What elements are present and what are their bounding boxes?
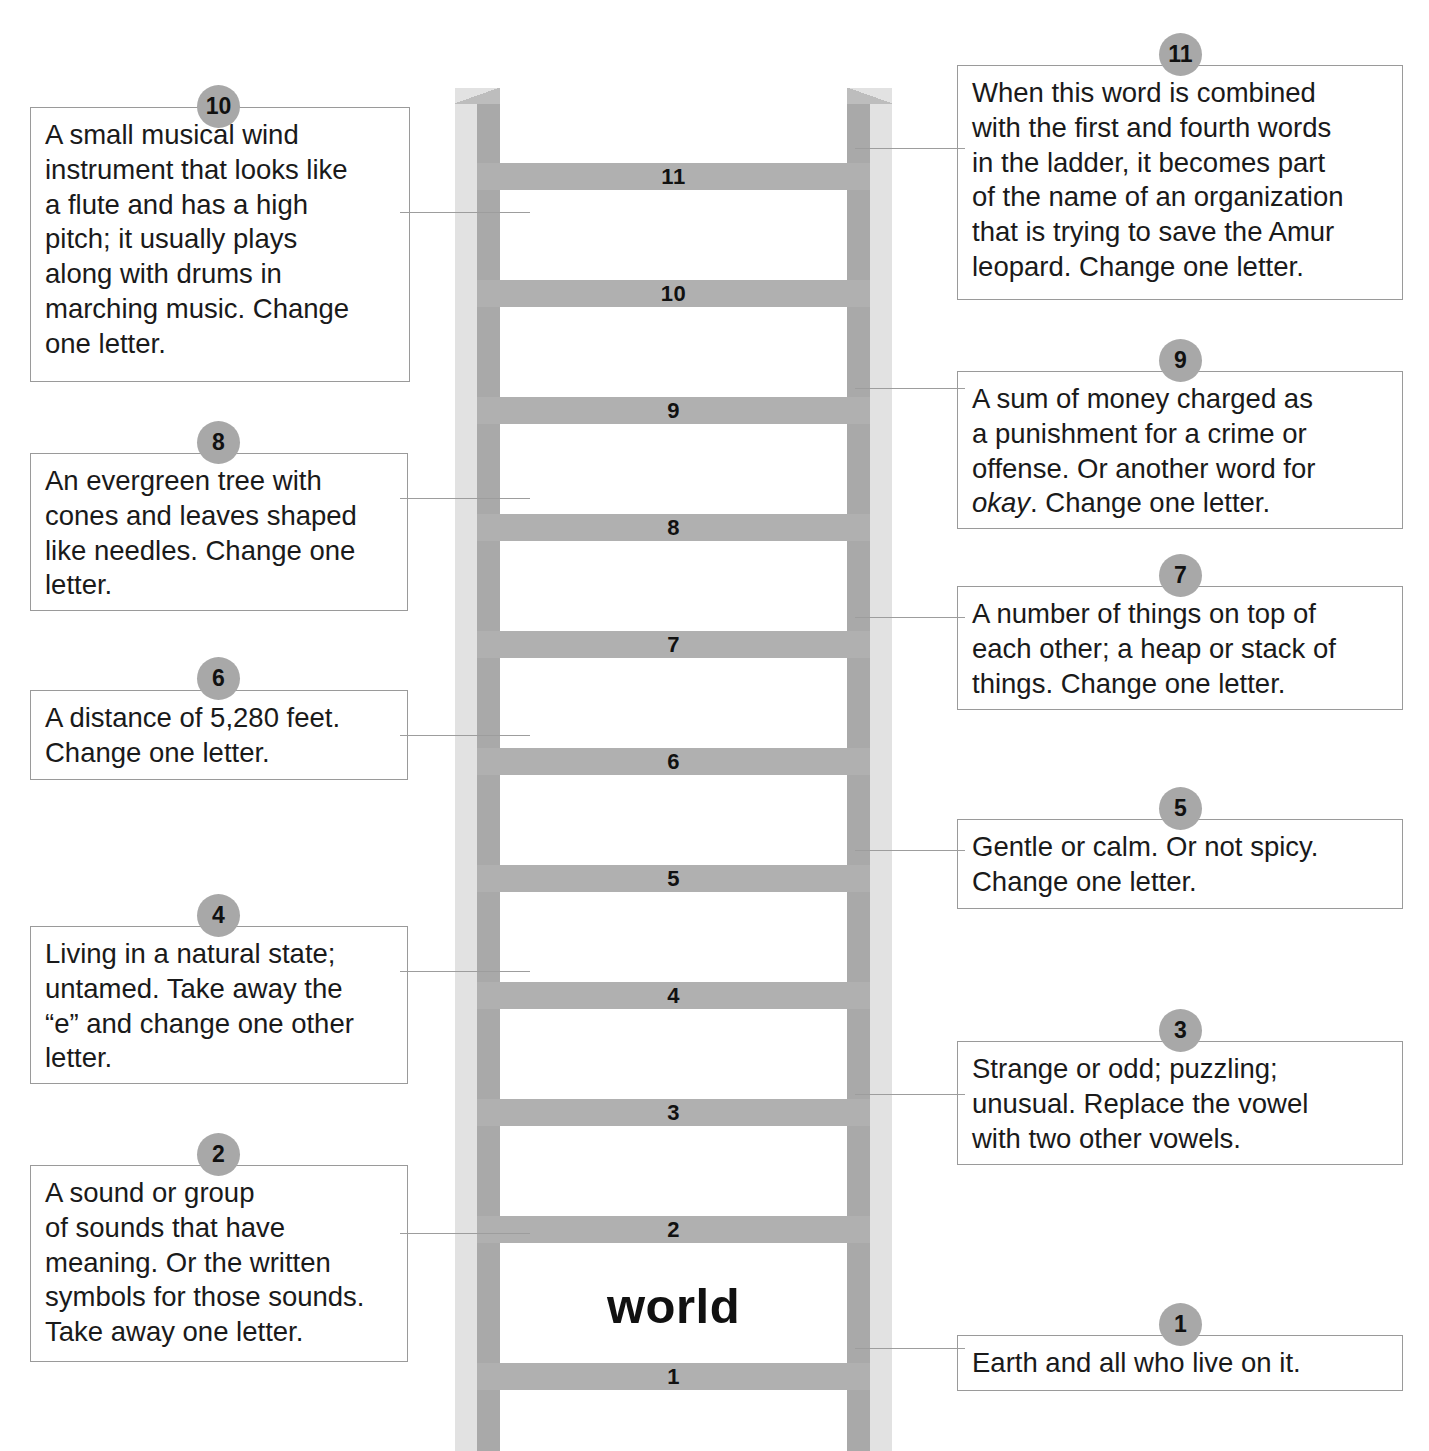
clue-badge-9: 9: [1159, 339, 1202, 382]
clue-box-10: A small musical wind instrument that loo…: [30, 107, 410, 382]
clue-box-7: A number of things on top of each other;…: [957, 586, 1403, 710]
clue-badge-10: 10: [197, 85, 240, 128]
clue-text-10: A small musical wind instrument that loo…: [45, 118, 395, 361]
answer-word-world: world: [500, 1278, 847, 1334]
clue-text-3: Strange or odd; puzzling; unusual. Repla…: [972, 1052, 1388, 1156]
clue-badge-11: 11: [1159, 33, 1202, 76]
ladder-rung-10: 10: [477, 280, 870, 307]
clue-text-11: When this word is combined with the firs…: [972, 76, 1388, 285]
clue-text-6: A distance of 5,280 feet. Change one let…: [45, 701, 393, 771]
ladder-rail-left-cap: [455, 88, 500, 104]
ladder-rung-3: 3: [477, 1099, 870, 1126]
connector-clue-10: [400, 212, 530, 213]
rung-number-1: 1: [477, 1364, 870, 1390]
connector-clue-9: [855, 388, 965, 389]
clue-badge-6: 6: [197, 657, 240, 700]
clue-text-7: A number of things on top of each other;…: [972, 597, 1388, 701]
clue-box-11: When this word is combined with the firs…: [957, 65, 1403, 300]
clue-box-4: Living in a natural state; untamed. Take…: [30, 926, 408, 1084]
rung-number-10: 10: [477, 281, 870, 307]
ladder-rung-2: 2: [477, 1216, 870, 1243]
clue-text-9-part1: A sum of money charged as a punishment f…: [972, 383, 1315, 484]
ladder-rung-8: 8: [477, 514, 870, 541]
connector-clue-8: [400, 498, 530, 499]
rung-number-8: 8: [477, 515, 870, 541]
rung-number-2: 2: [477, 1217, 870, 1243]
rung-number-11: 11: [477, 164, 870, 190]
ladder-rung-6: 6: [477, 748, 870, 775]
word-ladder-graphic: 11 10 9 8 7 6 5 4 3 2 1 world: [455, 88, 892, 1451]
connector-clue-4: [400, 971, 530, 972]
ladder-rung-7: 7: [477, 631, 870, 658]
connector-clue-5: [855, 850, 965, 851]
clue-badge-2: 2: [197, 1133, 240, 1176]
ladder-rail-left-outer: [455, 88, 477, 1451]
ladder-rung-11: 11: [477, 163, 870, 190]
clue-box-6: A distance of 5,280 feet. Change one let…: [30, 690, 408, 780]
rung-number-4: 4: [477, 983, 870, 1009]
clue-text-9-italic: okay: [972, 487, 1030, 518]
clue-box-3: Strange or odd; puzzling; unusual. Repla…: [957, 1041, 1403, 1165]
clue-text-5: Gentle or calm. Or not spicy. Change one…: [972, 830, 1388, 900]
clue-box-8: An evergreen tree with cones and leaves …: [30, 453, 408, 611]
connector-clue-1: [855, 1348, 965, 1349]
ladder-rail-right-cap: [847, 88, 892, 104]
word-ladder-puzzle-page: 11 10 9 8 7 6 5 4 3 2 1 world: [0, 0, 1429, 1451]
connector-clue-3: [855, 1094, 965, 1095]
clue-badge-1: 1: [1159, 1303, 1202, 1346]
clue-box-9: A sum of money charged as a punishment f…: [957, 371, 1403, 529]
clue-text-9: A sum of money charged as a punishment f…: [972, 382, 1388, 521]
clue-badge-8: 8: [197, 421, 240, 464]
clue-badge-5: 5: [1159, 787, 1202, 830]
rung-number-5: 5: [477, 866, 870, 892]
connector-clue-6: [400, 735, 530, 736]
ladder-rung-1: 1: [477, 1363, 870, 1390]
clue-text-8: An evergreen tree with cones and leaves …: [45, 464, 393, 603]
ladder-rung-4: 4: [477, 982, 870, 1009]
rung-number-3: 3: [477, 1100, 870, 1126]
clue-text-9-part2: . Change one letter.: [1030, 487, 1270, 518]
clue-badge-7: 7: [1159, 554, 1202, 597]
rung-number-6: 6: [477, 749, 870, 775]
rung-number-7: 7: [477, 632, 870, 658]
clue-badge-4: 4: [197, 894, 240, 937]
clue-badge-3: 3: [1159, 1009, 1202, 1052]
clue-box-5: Gentle or calm. Or not spicy. Change one…: [957, 819, 1403, 909]
rung-number-9: 9: [477, 398, 870, 424]
connector-clue-2: [400, 1233, 530, 1234]
connector-clue-7: [855, 617, 965, 618]
ladder-rung-5: 5: [477, 865, 870, 892]
ladder-rail-right-outer: [870, 88, 892, 1451]
clue-text-2: A sound or group of sounds that have mea…: [45, 1176, 393, 1350]
clue-text-1: Earth and all who live on it.: [972, 1346, 1388, 1381]
clue-box-2: A sound or group of sounds that have mea…: [30, 1165, 408, 1362]
ladder-rung-9: 9: [477, 397, 870, 424]
connector-clue-11: [855, 148, 965, 149]
clue-text-4: Living in a natural state; untamed. Take…: [45, 937, 393, 1076]
